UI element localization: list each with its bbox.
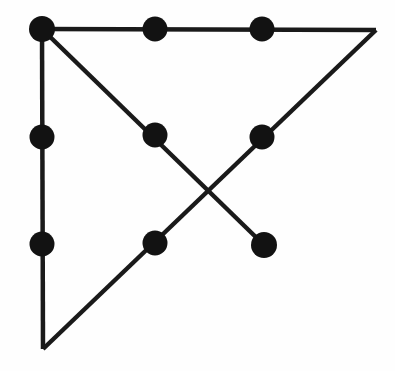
edges-group — [42, 29, 376, 349]
bottom-middle-node — [143, 231, 168, 256]
left-lower-node — [30, 232, 55, 257]
top-right-node — [250, 17, 275, 42]
center-node — [143, 123, 168, 148]
lower-right-endpoint-node — [251, 232, 277, 258]
top-middle-node — [143, 17, 168, 42]
top-left-node — [29, 16, 55, 42]
top-horizontal-edge — [42, 29, 376, 30]
diagram-svg — [0, 0, 395, 371]
right-middle-node — [250, 125, 275, 150]
left-vertical-edge — [42, 29, 43, 349]
figure-canvas — [0, 0, 395, 371]
left-middle-node — [30, 125, 55, 150]
